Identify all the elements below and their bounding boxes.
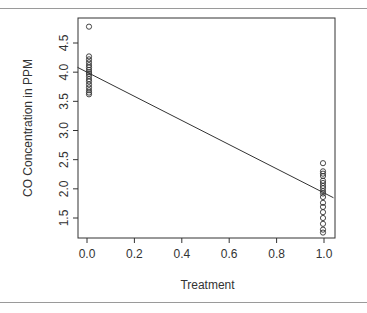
x-tick-label: 0.2 [126,247,143,261]
y-tick-label: 1.5 [57,209,71,226]
y-tick-label: 3.0 [57,122,71,139]
x-tick-label: 0.0 [79,247,96,261]
x-tick-label: 0.6 [221,247,238,261]
data-point [86,24,91,29]
data-point [320,161,325,166]
scatter-plot: 0.00.20.40.60.81.01.52.02.53.03.54.04.5T… [0,0,367,313]
data-point [320,210,325,215]
x-tick-label: 1.0 [316,247,333,261]
y-tick-label: 4.0 [57,64,71,81]
y-tick-label: 3.5 [57,93,71,110]
plot-frame [78,18,335,238]
y-axis-label: CO Concentration in PPM [21,59,35,197]
data-point [320,215,325,220]
x-axis-label: Treatment [180,278,235,292]
data-point [320,194,325,199]
x-tick-label: 0.4 [173,247,190,261]
x-tick-label: 0.8 [268,247,285,261]
y-tick-label: 4.5 [57,34,71,51]
regression-line [78,67,334,197]
y-tick-label: 2.5 [57,151,71,168]
data-point [320,221,325,226]
y-tick-label: 2.0 [57,180,71,197]
